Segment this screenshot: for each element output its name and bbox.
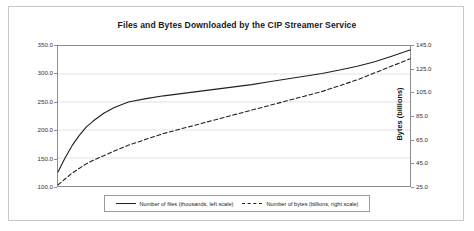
y-axis-right-title: Bytes (billions)	[395, 87, 404, 140]
chart-figure: Files and Bytes Downloaded by the CIP St…	[8, 6, 464, 221]
y-axis-right-tick-mark	[411, 140, 414, 141]
y-axis-right-tick-mark	[411, 69, 414, 70]
legend-label: Number of bytes (billions, right scale)	[266, 201, 358, 207]
legend-line-icon	[116, 200, 136, 207]
legend-line-icon	[242, 200, 262, 207]
y-axis-right-tick-mark	[411, 116, 414, 117]
legend-label: Number of files (thousands, left scale)	[140, 201, 234, 207]
legend-entry-1[interactable]: Number of bytes (billions, right scale)	[242, 200, 358, 207]
y-axis-right-tick-mark	[411, 163, 414, 164]
chart-legend: Number of files (thousands, left scale)N…	[104, 195, 370, 212]
y-axis-right-tick-mark	[411, 45, 414, 46]
y-axis-right-ticks: 25.045.065.085.0105.0125.0145.0	[57, 45, 411, 187]
y-axis-right-tick-label: 145.0	[411, 42, 431, 48]
y-axis-right-tick-label: 105.0	[411, 89, 431, 95]
y-axis-right-tick-mark	[411, 187, 414, 188]
legend-entry-0[interactable]: Number of files (thousands, left scale)	[116, 200, 234, 207]
y-axis-right-tick-label: 125.0	[411, 66, 431, 72]
y-axis-left-tick-mark	[54, 187, 57, 188]
chart-title: Files and Bytes Downloaded by the CIP St…	[9, 20, 465, 30]
y-axis-right-tick-mark	[411, 92, 414, 93]
